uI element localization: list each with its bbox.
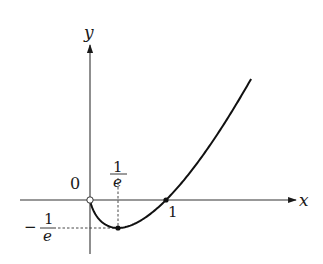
y-tick-neg-inv-e-num: 1 bbox=[44, 210, 54, 228]
x-tick-one: 1 bbox=[168, 203, 178, 221]
x-axis-label: x bbox=[299, 190, 309, 210]
origin-open-point bbox=[87, 197, 93, 203]
min-point bbox=[115, 225, 120, 230]
y-tick-neg-inv-e-den: e bbox=[43, 227, 52, 245]
chart: y x 0 1 e 1 − 1 e bbox=[0, 0, 323, 264]
y-axis-label: y bbox=[83, 22, 94, 42]
x-intercept-point bbox=[163, 197, 168, 202]
x-tick-inv-e-den: e bbox=[113, 173, 122, 191]
origin-label: 0 bbox=[70, 174, 80, 193]
y-tick-neg-inv-e-sign: − bbox=[24, 218, 37, 236]
